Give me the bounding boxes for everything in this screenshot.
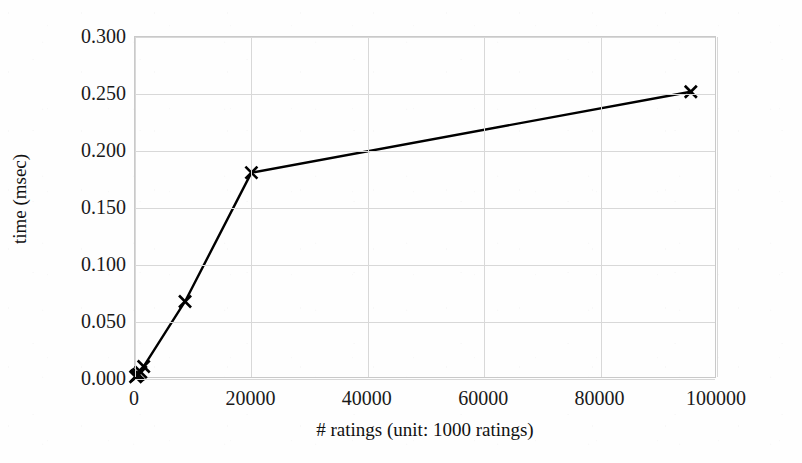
- x-tick-label: 40000: [342, 388, 392, 408]
- gridline-vertical: [368, 37, 369, 377]
- data-point-marker-x: [179, 295, 191, 307]
- y-tick-label: 0.100: [81, 254, 126, 274]
- gridline-horizontal: [135, 265, 715, 266]
- series-line: [136, 92, 691, 377]
- gridline-vertical: [135, 37, 136, 377]
- x-tick-label: 60000: [458, 388, 508, 408]
- gridline-vertical: [717, 37, 718, 377]
- y-tick-label: 0.050: [81, 311, 126, 331]
- gridline-horizontal: [135, 208, 715, 209]
- gridline-horizontal: [135, 37, 715, 38]
- y-tick-label: 0.250: [81, 83, 126, 103]
- gridline-vertical: [484, 37, 485, 377]
- x-tick-label: 80000: [575, 388, 625, 408]
- y-axis-title: time (msec): [9, 119, 31, 279]
- y-tick-label: 0.300: [81, 26, 126, 46]
- y-tick-label: 0.200: [81, 140, 126, 160]
- x-tick-label: 100000: [686, 388, 746, 408]
- gridline-horizontal: [135, 94, 715, 95]
- gridline-horizontal: [135, 379, 715, 380]
- x-axis-title: # ratings (unit: 1000 ratings): [134, 419, 716, 441]
- gridline-vertical: [601, 37, 602, 377]
- x-tick-label: 0: [129, 388, 139, 408]
- y-tick-label: 0.000: [81, 368, 126, 388]
- gridline-horizontal: [135, 151, 715, 152]
- x-tick-label: 20000: [225, 388, 275, 408]
- gridline-vertical: [251, 37, 252, 377]
- chart-figure: 0.0000.0500.1000.1500.2000.2500.300 0200…: [0, 0, 802, 463]
- y-tick-label: 0.150: [81, 197, 126, 217]
- plot-area: [134, 36, 716, 378]
- x-axis-tick-labels: 020000400006000080000100000: [0, 388, 802, 416]
- gridline-horizontal: [135, 322, 715, 323]
